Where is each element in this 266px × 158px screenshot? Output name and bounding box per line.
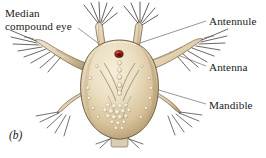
label-antenna: Antenna	[209, 61, 248, 74]
median-compound-eye	[115, 50, 123, 57]
label-mandible: Mandible	[209, 99, 253, 112]
label-antennule: Antennule	[209, 15, 257, 28]
label-median-line1: Median	[5, 7, 40, 19]
label-median-compound-eye: Mediancompound eye	[5, 7, 72, 33]
left-antenna	[10, 30, 86, 72]
anatomy-figure: Mediancompound eye Antennule Antenna Man…	[0, 0, 266, 158]
label-median-line2: compound eye	[5, 20, 72, 32]
figure-caption: (b)	[9, 129, 22, 141]
